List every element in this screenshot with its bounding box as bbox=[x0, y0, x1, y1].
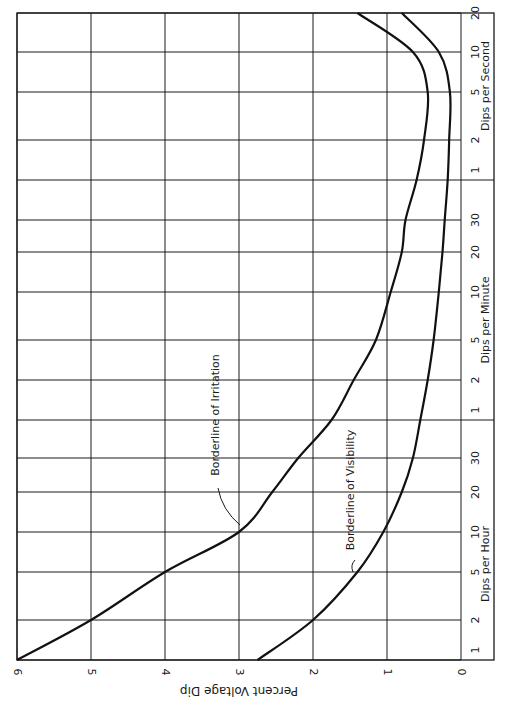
xtick-label: 30 bbox=[469, 213, 482, 227]
xtick-label: 20 bbox=[469, 6, 482, 20]
ytick-label: 1 bbox=[381, 669, 394, 676]
leader-visibility bbox=[352, 560, 355, 572]
xtick-label: 1 bbox=[469, 647, 482, 654]
annotation-visibility: Borderline of Visibility bbox=[344, 429, 357, 550]
ytick-label: 0 bbox=[455, 669, 468, 676]
xtick-label: 30 bbox=[469, 451, 482, 465]
ytick-label: 6 bbox=[11, 669, 24, 676]
xlabel-hour: Dips per Hour bbox=[479, 526, 492, 602]
visibility-curve bbox=[258, 13, 451, 660]
xtick-label: 2 bbox=[469, 137, 482, 144]
xtick-label: 2 bbox=[469, 617, 482, 624]
ytick-label: 5 bbox=[85, 669, 98, 676]
xlabel-minute: Dips per Minute bbox=[479, 276, 492, 363]
xtick-label: 20 bbox=[469, 485, 482, 499]
xtick-label: 1 bbox=[469, 167, 482, 174]
chart-curves bbox=[17, 13, 451, 660]
ytick-label: 3 bbox=[233, 669, 246, 676]
xtick-label: 20 bbox=[469, 245, 482, 259]
leader-irritation bbox=[218, 488, 240, 525]
xlabel-second: Dips per Second bbox=[479, 41, 492, 131]
voltage-flicker-chart: 0123456Percent Voltage Dip12510203012510… bbox=[0, 0, 509, 706]
ylabel: Percent Voltage Dip bbox=[180, 684, 298, 698]
chart-labels: 0123456Percent Voltage Dip12510203012510… bbox=[11, 6, 492, 698]
ytick-label: 2 bbox=[307, 669, 320, 676]
annotation-irritation: Borderline of Irritation bbox=[209, 354, 222, 476]
plot-border bbox=[17, 13, 494, 660]
irritation-curve bbox=[17, 13, 428, 660]
xtick-label: 2 bbox=[469, 377, 482, 384]
ytick-label: 4 bbox=[159, 669, 172, 676]
xtick-label: 1 bbox=[469, 407, 482, 414]
chart-grid bbox=[17, 13, 494, 660]
